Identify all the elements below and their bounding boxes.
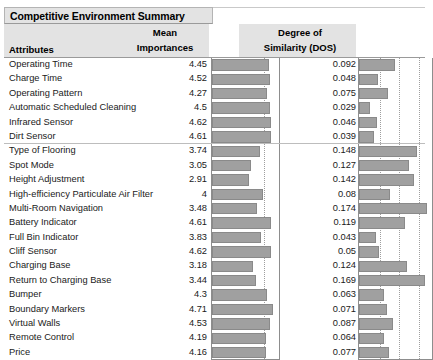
table-row: Type of Flooring3.740.148: [4, 144, 425, 158]
mean-importance-bar-track: [212, 88, 277, 99]
mean-importance-value: 4.16: [124, 347, 207, 357]
dos-bar: [359, 74, 378, 85]
mean-importance-bar: [212, 347, 266, 358]
dos-bar-track: [359, 131, 430, 142]
column-header-mean-line2: Importances: [124, 40, 206, 55]
mean-importance-value: 4.45: [124, 59, 207, 69]
attribute-label: Price: [9, 347, 30, 357]
mean-importance-bar: [212, 246, 271, 257]
mean-importance-bar: [212, 59, 269, 70]
mean-importance-bar: [212, 160, 251, 171]
mean-importance-bar-track: [212, 102, 277, 113]
dos-bar-track: [359, 261, 430, 272]
column-header-dos-line1: Degree of: [244, 25, 356, 40]
table-row: Price4.160.077: [4, 346, 425, 360]
mean-importance-bar: [212, 203, 257, 214]
dos-value: 0.043: [272, 232, 356, 242]
mean-importance-bar: [212, 333, 266, 344]
dos-bar-track: [359, 74, 430, 85]
dos-value: 0.124: [272, 260, 356, 270]
dos-value: 0.071: [272, 304, 356, 314]
mean-importance-bar-track: [212, 304, 277, 315]
mean-importance-bar-track: [212, 318, 277, 329]
dos-bar: [359, 275, 425, 286]
mean-importance-bar-track: [212, 232, 277, 243]
attribute-label: Full Bin Indicator: [9, 232, 78, 242]
dos-bar: [359, 318, 393, 329]
dos-value: 0.063: [272, 289, 356, 299]
mean-importance-value: 4.53: [124, 318, 207, 328]
mean-importance-value: 4.71: [124, 304, 207, 314]
mean-importance-bar-track: [212, 246, 277, 257]
attribute-label: Charge Time: [9, 73, 62, 83]
table-row: Spot Mode3.050.127: [4, 159, 425, 173]
table-row: Dirt Sensor4.610.039: [4, 130, 425, 144]
attribute-label: Multi-Room Navigation: [9, 203, 103, 213]
mean-importance-value: 3.05: [124, 160, 207, 170]
attribute-label: Spot Mode: [9, 160, 54, 170]
dos-value: 0.142: [272, 174, 356, 184]
mean-importance-bar-track: [212, 74, 277, 85]
mean-importance-bar: [212, 304, 273, 315]
mean-importance-bar: [212, 174, 249, 185]
dos-bar-track: [359, 246, 430, 257]
dos-bar: [359, 246, 379, 257]
table-row: Charge Time4.520.048: [4, 72, 425, 86]
table-row: Virtual Walls4.530.087: [4, 317, 425, 331]
dos-value: 0.039: [272, 131, 356, 141]
dos-bar-track: [359, 347, 430, 358]
mean-importance-bar-track: [212, 289, 277, 300]
dos-value: 0.077: [272, 347, 356, 357]
mean-importance-bar: [212, 189, 263, 200]
mean-importance-bar-track: [212, 131, 277, 142]
table-row: Boundary Markers4.710.071: [4, 303, 425, 317]
dos-bar: [359, 347, 389, 358]
dos-bar: [359, 117, 377, 128]
table-row: Bumper4.30.063: [4, 288, 425, 302]
mean-importance-value: 3.44: [124, 275, 207, 285]
dos-value: 0.048: [272, 73, 356, 83]
header-gap-mean-chart: [209, 24, 239, 57]
mean-importance-bar: [212, 289, 267, 300]
dos-bar-track: [359, 304, 430, 315]
table-row: Height Adjustment2.910.142: [4, 173, 425, 187]
dos-bar-track: [359, 102, 430, 113]
attribute-label: Infrared Sensor: [9, 117, 73, 127]
dos-bar: [359, 333, 384, 344]
attribute-label: Boundary Markers: [9, 304, 85, 314]
attribute-label: Type of Flooring: [9, 145, 76, 155]
mean-importance-bar: [212, 74, 270, 85]
mean-importance-bar-track: [212, 217, 277, 228]
mean-importance-value: 4: [124, 189, 207, 199]
mean-importance-bar-track: [212, 275, 277, 286]
dos-bar-track: [359, 217, 430, 228]
table-row: Battery Indicator4.610.119: [4, 216, 425, 230]
mean-importance-bar: [212, 261, 253, 272]
mean-importance-bar-track: [212, 189, 277, 200]
table-row: Infrared Sensor4.620.046: [4, 116, 425, 130]
mean-importance-bar-track: [212, 333, 277, 344]
dos-bar-track: [359, 275, 430, 286]
mean-importance-bar-track: [212, 203, 277, 214]
dos-bar: [359, 189, 390, 200]
mean-importance-value: 4.62: [124, 117, 207, 127]
mean-importance-value: 3.48: [124, 203, 207, 213]
dos-bar: [359, 232, 376, 243]
attribute-label: Dirt Sensor: [9, 131, 56, 141]
dos-value: 0.092: [272, 59, 356, 69]
dos-value: 0.119: [272, 217, 356, 227]
dos-value: 0.127: [272, 160, 356, 170]
table-header-row: Attributes Mean Importances Degree of Si…: [4, 24, 425, 58]
table-row: Full Bin Indicator3.830.043: [4, 231, 425, 245]
mean-importance-bar: [212, 232, 261, 243]
mean-importance-value: 3.83: [124, 232, 207, 242]
attribute-label: Virtual Walls: [9, 318, 60, 328]
dos-value: 0.05: [272, 246, 356, 256]
header-gap-dos-chart: [356, 24, 425, 57]
table-row: Charging Base3.180.124: [4, 259, 425, 273]
mean-importance-value: 4.19: [124, 332, 207, 342]
dos-bar-track: [359, 59, 430, 70]
attribute-label: Return to Charging Base: [9, 275, 111, 285]
mean-importance-bar: [212, 217, 271, 228]
mean-importance-bar-track: [212, 59, 277, 70]
